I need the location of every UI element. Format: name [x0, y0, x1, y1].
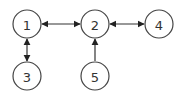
- graph-diagram: 1 2 4 3 5: [0, 0, 185, 99]
- node-3-label: 3: [23, 70, 31, 85]
- node-5-label: 5: [91, 70, 99, 85]
- node-1-label: 1: [23, 18, 31, 33]
- node-2-label: 2: [91, 18, 99, 33]
- node-4: 4: [145, 10, 173, 38]
- node-2: 2: [81, 10, 109, 38]
- node-5: 5: [81, 62, 109, 90]
- node-1: 1: [13, 10, 41, 38]
- node-4-label: 4: [155, 18, 163, 33]
- node-3: 3: [13, 62, 41, 90]
